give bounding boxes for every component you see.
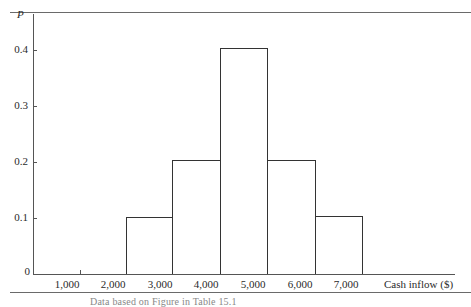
y-tick-label: 0.3 [4,99,28,111]
x-tick-label: 4,000 [186,278,226,290]
bar-7000 [315,216,363,274]
x-tick-label: 5,000 [233,278,273,290]
y-tick-label: 0.2 [4,155,28,167]
y-tick-0.4 [33,50,37,51]
top-rule [10,12,471,13]
x-tick-label: 3,000 [140,278,180,290]
x-axis [33,274,455,275]
y-tick-label: 0.1 [4,211,28,223]
x-axis-tick [80,270,81,274]
x-tick-label: 6,000 [280,278,320,290]
bar-6000 [267,160,316,274]
bottom-rule [10,292,471,293]
x-tick-label: 1,000 [47,278,87,290]
bar-3000 [126,217,173,274]
y-axis [33,14,34,275]
x-tick-label: 2,000 [93,278,133,290]
y-tick-label: 0.4 [4,43,28,55]
bar-5000 [220,48,268,274]
y-axis-title: P [17,8,24,20]
y-tick-0.1 [33,218,37,219]
y-tick-0.3 [33,106,37,107]
bar-4000 [172,160,221,274]
y-tick-0.2 [33,162,37,163]
figure-caption: Data based on Figure in Table 15.1 [90,296,237,307]
x-axis-title: Cash inflow ($) [384,278,453,290]
y-tick-label: 0 [4,265,30,277]
x-tick-label: 7,000 [326,278,366,290]
